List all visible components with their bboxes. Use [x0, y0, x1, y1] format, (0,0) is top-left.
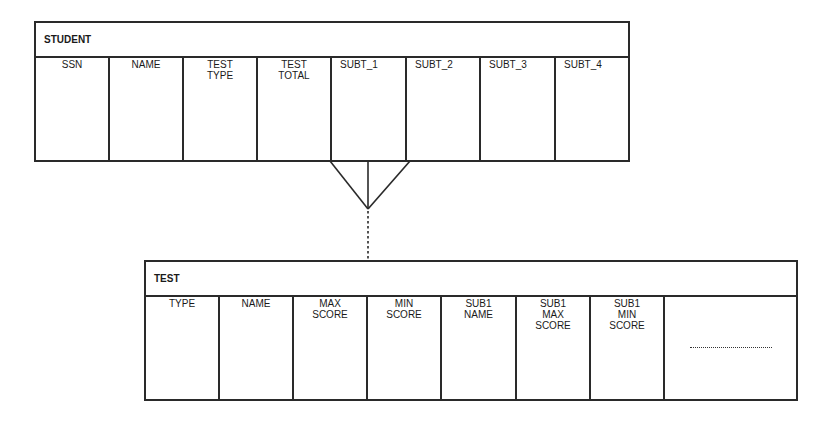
ellipsis-dotted-line [690, 347, 772, 348]
test-columns: TYPE NAME MAX SCORE MIN SCORE SUB1 NAME … [146, 295, 796, 399]
test-entity: TEST TYPE NAME MAX SCORE MIN SCORE SUB1 … [144, 260, 798, 401]
test-col-sub1-min-score: SUB1 MIN SCORE [591, 295, 665, 399]
test-col-sub1-name: SUB1 NAME [442, 295, 517, 399]
test-col-min-score: MIN SCORE [368, 295, 442, 399]
test-col-continuation [665, 295, 796, 399]
test-col-name: NAME [220, 295, 294, 399]
test-col-max-score: MAX SCORE [294, 295, 368, 399]
test-entity-title: TEST [146, 262, 796, 297]
test-col-sub1-max-score: SUB1 MAX SCORE [517, 295, 591, 399]
crows-foot-icon [330, 161, 410, 209]
test-col-type: TYPE [146, 295, 220, 399]
